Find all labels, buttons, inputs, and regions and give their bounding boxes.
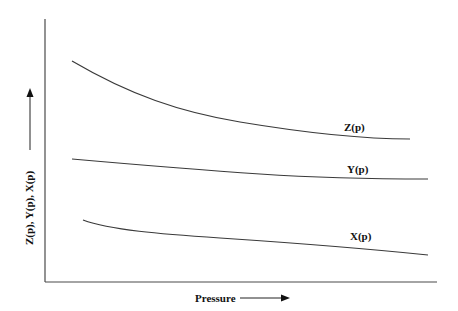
arrow-right-icon [281,295,290,302]
curve-x [83,220,428,255]
chart: Z(p) Y(p) X(p) Z(p), Y(p), X(p) Pressure [0,0,458,311]
curve-y [72,159,428,179]
x-axis-title: Pressure [195,292,236,304]
label-y-curve: Y(p) [347,163,369,176]
label-x-curve: X(p) [350,230,372,243]
svg-text:Z(p), Y(p), X(p): Z(p), Y(p), X(p) [23,171,36,245]
y-axis-title: Z(p), Y(p), X(p) [23,171,36,245]
arrow-up-icon [27,88,34,97]
label-z-curve: Z(p) [344,121,365,134]
